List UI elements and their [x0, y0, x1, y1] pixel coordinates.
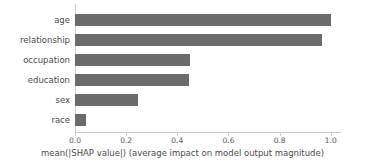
bar-education: [75, 74, 189, 86]
bar-rect: [75, 14, 331, 26]
y-axis-label-race: race: [51, 114, 70, 126]
shap-feature-importance-chart: agerelationshipoccupationeducationsexrac…: [0, 0, 365, 164]
y-axis-label-relationship: relationship: [20, 34, 70, 46]
x-tick-label-0: 0.0: [69, 136, 81, 146]
bar-sex: [75, 94, 138, 106]
bar-rect: [75, 114, 86, 126]
x-axis-spine: [75, 132, 341, 133]
bar-race: [75, 114, 86, 126]
bar-relationship: [75, 34, 322, 46]
y-axis-labels: agerelationshipoccupationeducationsexrac…: [0, 8, 70, 130]
bar-rect: [75, 94, 138, 106]
plot-area: [75, 8, 341, 130]
bar-rect: [75, 54, 190, 66]
x-axis-title: mean(|SHAP value|) (average impact on mo…: [0, 148, 365, 159]
x-tick-label-4: 0.8: [274, 136, 286, 146]
bar-rect: [75, 34, 322, 46]
x-tick-label-1: 0.2: [120, 136, 132, 146]
bar-occupation: [75, 54, 190, 66]
y-axis-label-age: age: [54, 14, 70, 26]
bar-age: [75, 14, 331, 26]
y-axis-label-occupation: occupation: [23, 54, 70, 66]
y-axis-label-sex: sex: [55, 94, 70, 106]
y-axis-label-education: education: [28, 74, 70, 86]
x-tick-label-5: 1.0: [325, 136, 337, 146]
x-tick-label-2: 0.4: [171, 136, 183, 146]
bar-rect: [75, 74, 189, 86]
x-tick-label-3: 0.6: [222, 136, 234, 146]
